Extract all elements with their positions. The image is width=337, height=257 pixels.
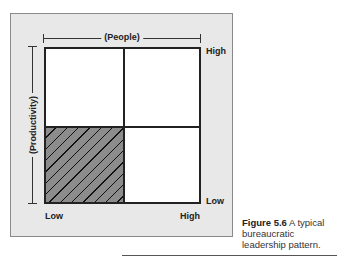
caption-text-3: leadership pattern. bbox=[242, 239, 321, 250]
productivity-axis-label: (Productivity) bbox=[28, 93, 38, 157]
y-low-label: Low bbox=[206, 196, 224, 206]
productivity-axis: (Productivity) bbox=[28, 46, 37, 204]
x-low-label: Low bbox=[45, 211, 63, 221]
caption-text-2: bureaucratic bbox=[242, 228, 294, 239]
people-axis-label: (People) bbox=[101, 32, 143, 42]
axis-tick bbox=[28, 203, 37, 204]
x-high-label: High bbox=[180, 211, 200, 221]
quadrant-grid bbox=[44, 47, 201, 204]
axis-tick bbox=[43, 34, 44, 43]
axis-tick bbox=[200, 34, 201, 43]
caption-text-1: A typical bbox=[287, 217, 325, 228]
y-high-label: High bbox=[206, 46, 226, 56]
grid-divider-horizontal bbox=[46, 126, 199, 128]
figure-caption: Figure 5.6 A typical bureaucratic leader… bbox=[242, 217, 337, 250]
hatched-quadrant-low-low bbox=[46, 127, 123, 202]
divider-rule bbox=[122, 255, 337, 256]
axis-tick bbox=[28, 46, 37, 47]
people-axis: (People) bbox=[43, 34, 201, 43]
figure-number: Figure 5.6 bbox=[242, 217, 287, 228]
